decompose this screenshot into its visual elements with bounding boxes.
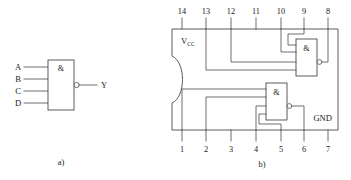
pin-number-14: 14 xyxy=(178,7,187,16)
panel-a-symbol: A B C D & Y a) xyxy=(15,60,107,167)
pin-number-8: 8 xyxy=(326,7,330,16)
pin-number-9: 9 xyxy=(302,7,306,16)
pin-number-6: 6 xyxy=(302,145,306,154)
pin-number-12: 12 xyxy=(227,7,235,16)
pin-number-10: 10 xyxy=(277,7,285,16)
pin-number-1: 1 xyxy=(180,145,184,154)
symbol-input-label-d: D xyxy=(15,98,21,108)
top-pin-stubs xyxy=(182,18,328,29)
symbol-input-label-b: B xyxy=(15,74,21,84)
wire-pin2-to-lower-gate xyxy=(206,97,266,130)
gnd-label: GND xyxy=(313,113,332,123)
upper-gate-output-bubble-icon xyxy=(317,60,322,65)
figure-canvas: A B C D & Y a) xyxy=(0,0,351,180)
wire-pin1-to-lower-gate xyxy=(182,89,266,130)
vcc-label-subscript: CC xyxy=(187,41,195,47)
figure-root: A B C D & Y a) xyxy=(0,0,351,180)
pin-number-3: 3 xyxy=(229,145,233,154)
symbol-output-label-y: Y xyxy=(101,80,107,90)
pin-number-2: 2 xyxy=(204,145,208,154)
symbol-input-label-a: A xyxy=(15,62,22,72)
wire-pin12-to-upper-gate xyxy=(231,29,296,62)
symbol-output-bubble-icon xyxy=(74,82,79,87)
caption-panel-b: b) xyxy=(259,160,266,169)
panel-b-package: 14 13 12 11 10 9 8 1 2 3 4 5 6 xyxy=(172,7,338,169)
pin-number-4: 4 xyxy=(254,145,259,154)
upper-gate-marker: & xyxy=(303,44,310,53)
symbol-input-wires xyxy=(24,67,48,103)
symbol-gate-marker: & xyxy=(58,64,65,73)
lower-gate-marker: & xyxy=(273,88,280,97)
lower-gate-output-bubble-icon xyxy=(287,104,292,109)
symbol-input-label-c: C xyxy=(15,86,21,96)
pin-number-7: 7 xyxy=(326,145,330,154)
vcc-label: VCC xyxy=(181,36,195,47)
wire-lower-out-to-pin6 xyxy=(292,106,304,130)
wire-upper-out-to-pin8 xyxy=(322,29,328,62)
bottom-pin-stubs xyxy=(182,130,328,141)
pin-number-11: 11 xyxy=(252,7,260,16)
upper-gate-group: & xyxy=(206,29,328,76)
pin-number-13: 13 xyxy=(202,7,210,16)
wire-pin10-to-upper-gate xyxy=(281,29,296,52)
pin-number-5: 5 xyxy=(279,145,283,154)
caption-panel-a: a) xyxy=(58,158,65,167)
wire-pin13-to-upper-gate xyxy=(206,29,296,70)
wire-pin4-to-lower-gate xyxy=(256,106,266,130)
lower-gate-group: & xyxy=(182,83,304,130)
